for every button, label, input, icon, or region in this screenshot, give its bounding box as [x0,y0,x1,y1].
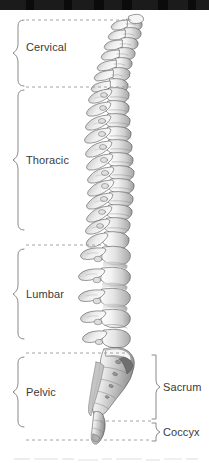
right-region-braces [152,355,160,441]
region-label-pelvic: Pelvic [26,386,56,398]
region-label-coccyx: Coccyx [163,426,200,438]
region-label-thoracic: Thoracic [26,154,69,166]
left-region-braces [13,20,24,427]
vertebral-column-illustration [79,14,144,444]
brace-thoracic [13,90,24,230]
lumbar-vertebrae-group [79,246,131,348]
brace-lumbar [13,249,24,339]
region-label-sacrum: Sacrum [163,381,202,393]
region-label-lumbar: Lumbar [26,288,64,300]
brace-sacrum [152,355,160,419]
coccyx-illustration [91,411,105,444]
region-label-cervical: Cervical [26,41,67,53]
brace-pelvic [13,357,24,427]
cervical-vertebrae-group [91,14,143,92]
figure-caption [8,455,204,463]
thoracic-vertebrae-group [85,88,135,249]
brace-cervical [13,20,24,86]
brace-coccyx [152,423,160,441]
sacrum-illustration [88,347,134,416]
